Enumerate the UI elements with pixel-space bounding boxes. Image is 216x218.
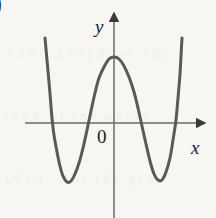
origin-label: 0	[97, 127, 107, 146]
x-axis-label: x	[191, 138, 199, 157]
y-axis-label: y	[95, 17, 103, 36]
graph-plot	[0, 0, 216, 218]
figure-container: f t h e g r a p h o f t h e r a p h o f …	[0, 0, 216, 218]
